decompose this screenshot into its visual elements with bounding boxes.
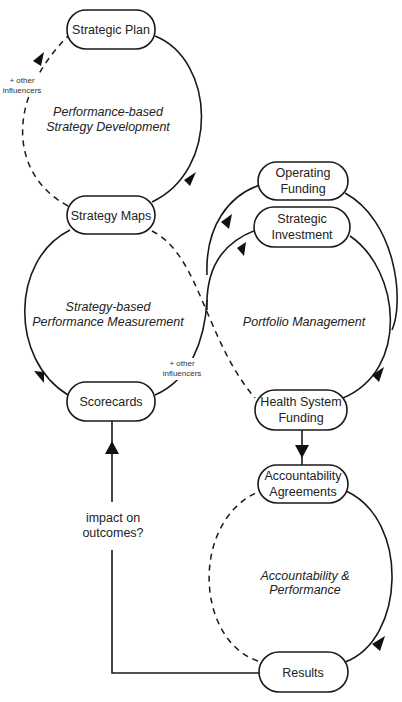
annotation-impact-on-outcomes-line1: impact on [86,511,140,525]
connector-agreements-to-results [345,491,392,662]
node-label-line2: Funding [280,182,325,196]
connector-plan-to-maps [152,36,202,202]
arrowhead-maps-to-plan [33,52,44,66]
annotation-impact-on-outcomes-line2: outcomes? [82,526,143,540]
connector-to-strategic-investment [207,230,256,310]
node-results[interactable]: Results [259,652,348,692]
node-health-system-funding[interactable]: Health System Funding [255,390,347,430]
node-label-line1: Accountability [264,469,342,483]
node-label-line2: Funding [278,411,323,425]
node-operating-funding[interactable]: Operating Funding [258,162,348,200]
node-strategic-plan[interactable]: Strategic Plan [67,10,155,49]
strategy-cycle-diagram: Strategic Plan Strategy Maps Scorecards … [0,0,402,702]
node-label-line2: Investment [271,228,333,242]
arrowhead-strategic-investment [237,242,246,256]
arrowhead-plan-to-maps [184,172,196,186]
cycle-label-performance-measurement-line2: Performance Measurement [32,315,184,329]
arrowhead-operating-funding [221,214,232,229]
node-label: Strategic Plan [72,23,150,37]
cycle-label-portfolio-management: Portfolio Management [243,315,366,329]
annotation-other-influencers-top-line2: influencers [3,86,42,95]
cycle-label-accountability-performance-line2: Performance [269,583,341,597]
node-strategy-maps[interactable]: Strategy Maps [67,196,155,234]
connector-to-operating-funding [207,185,260,275]
node-scorecards[interactable]: Scorecards [67,382,155,421]
connector-results-to-agreements-dashed [209,491,260,661]
annotation-other-influencers-top-line1: + other [9,76,34,85]
node-label-line1: Strategic [277,212,326,226]
cycle-label-strategy-development-line1: Performance-based [53,105,164,119]
arrowhead-maps-to-scorecards [34,371,44,383]
node-label-line1: Health System [260,395,341,409]
cycle-label-accountability-performance-line1: Accountability & [260,569,350,583]
node-label: Results [282,666,324,680]
node-label: Scorecards [79,395,142,409]
connector-results-to-scorecards-lower [112,550,259,673]
annotation-other-influencers-mid-line2: influencers [163,369,202,378]
annotation-other-influencers-mid-line1: + other [169,359,194,368]
node-strategic-investment[interactable]: Strategic Investment [254,207,350,247]
node-label: Strategy Maps [71,209,152,223]
arrowhead-to-scorecards [105,441,119,454]
cycle-label-strategy-development-line2: Strategy Development [46,120,170,134]
node-accountability-agreements[interactable]: Accountability Agreements [258,465,348,503]
arrowhead-funding-to-agreements [295,445,309,458]
node-label-line1: Operating [276,166,331,180]
node-label-line2: Agreements [269,485,336,499]
cycle-label-performance-measurement-line1: Strategy-based [66,300,152,314]
connector-maps-to-scorecards [25,230,70,395]
